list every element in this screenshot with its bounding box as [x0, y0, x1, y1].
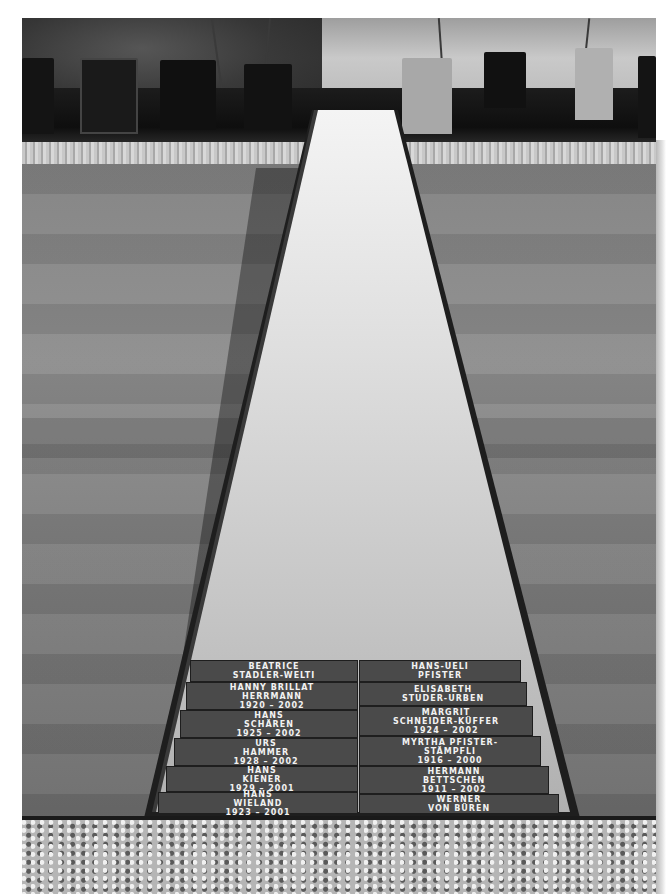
plaque-name: URS: [175, 739, 357, 748]
plaque-surname: BETTSCHEN: [360, 776, 548, 785]
page-edge: [656, 140, 666, 894]
plaque: WERNER VON BÜREN: [359, 794, 559, 814]
plaque: BEATRICE STADLER-WELTI: [190, 660, 358, 682]
plaque-name: BEATRICE: [191, 662, 357, 671]
name-plaques: BEATRICE STADLER-WELTI HANNY BRILLAT HER…: [22, 18, 656, 894]
plaque-name: MYRTHA PFISTER-: [360, 738, 540, 747]
plaque-years: 1928 – 2002: [175, 757, 357, 766]
plaque-name: HANS-UELI: [360, 662, 520, 671]
plaque: MARGRIT SCHNEIDER-KÜFFER 1924 – 2002: [359, 706, 533, 736]
plaque: HANS SCHÄREN 1925 – 2002: [180, 710, 358, 738]
plaque-years: 1923 – 2001: [159, 808, 357, 817]
plaque-years: 1924 – 2002: [360, 726, 532, 735]
plaque-years: 1911 – 2002: [360, 785, 548, 794]
plaque-name: ELISABETH: [360, 685, 526, 694]
plaque: HANS-UELI PFISTER: [359, 660, 521, 682]
plaque-name: WERNER: [360, 795, 558, 804]
plaque-name: HANS: [181, 711, 357, 720]
plaque: HANS KIENER 1929 – 2001: [166, 766, 358, 792]
plaque-years: 1920 – 2002: [187, 701, 357, 710]
plaque-surname: STÄMPFLI: [360, 747, 540, 756]
plaque-years: 1925 – 2002: [181, 729, 357, 738]
memorial-photo: BEATRICE STADLER-WELTI HANNY BRILLAT HER…: [22, 18, 656, 894]
plaque: ELISABETH STUDER-URBEN: [359, 682, 527, 706]
plaque: URS HAMMER 1928 – 2002: [174, 738, 358, 766]
plaque: HERMANN BETTSCHEN 1911 – 2002: [359, 766, 549, 794]
plaque-years: 1916 – 2000: [360, 756, 540, 765]
plaque-surname: VON BÜREN: [360, 804, 558, 813]
plaque-surname: SCHNEIDER-KÜFFER: [360, 717, 532, 726]
plaque-surname: KIENER: [167, 775, 357, 784]
plaque-name: HANNY BRILLAT: [187, 683, 357, 692]
plaque-name: HERMANN: [360, 767, 548, 776]
plaque-surname: PFISTER: [360, 671, 520, 680]
plaque-surname: SCHÄREN: [181, 720, 357, 729]
plaque-name: HANS: [159, 790, 357, 799]
plaque-name: MARGRIT: [360, 708, 532, 717]
plaque-surname: WIELAND: [159, 799, 357, 808]
plaque: HANS WIELAND 1923 – 2001: [158, 792, 358, 814]
plaque-name: HANS: [167, 766, 357, 775]
plaque-surname: HERRMANN: [187, 692, 357, 701]
plaque-surname: HAMMER: [175, 748, 357, 757]
plaque: MYRTHA PFISTER- STÄMPFLI 1916 – 2000: [359, 736, 541, 766]
plaque-surname: STADLER-WELTI: [191, 671, 357, 680]
plaque: HANNY BRILLAT HERRMANN 1920 – 2002: [186, 682, 358, 710]
plaque-surname: STUDER-URBEN: [360, 694, 526, 703]
